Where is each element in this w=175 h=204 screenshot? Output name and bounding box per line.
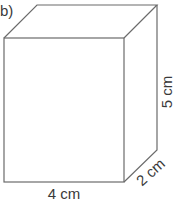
- right-face: [124, 5, 157, 182]
- top-face: [4, 5, 157, 38]
- front-face: [4, 38, 124, 182]
- depth-label: 2 cm: [133, 155, 169, 189]
- height-label: 5 cm: [158, 76, 175, 109]
- cuboid: [4, 5, 157, 182]
- part-label: b): [0, 2, 13, 19]
- width-label: 4 cm: [48, 185, 81, 202]
- cuboid-diagram: b) 4 cm 5 cm 2 cm: [0, 0, 175, 204]
